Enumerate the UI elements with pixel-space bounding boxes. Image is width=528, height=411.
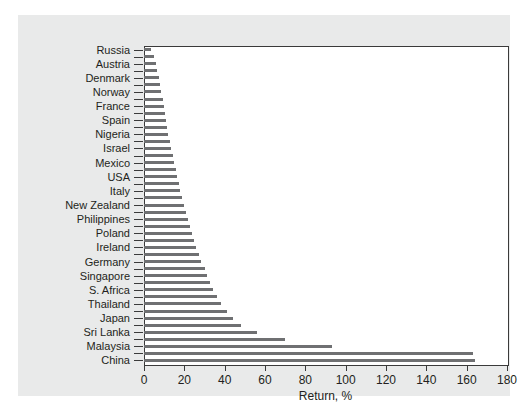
- bar: [144, 154, 173, 157]
- bar: [144, 211, 186, 214]
- y-axis-tick: [134, 141, 143, 142]
- y-axis-tick: [134, 177, 143, 178]
- y-axis-label: Thailand: [88, 298, 130, 309]
- y-axis-label: Philippines: [77, 214, 130, 225]
- y-axis-label: Israel: [103, 143, 130, 154]
- y-axis-tick: [134, 318, 143, 319]
- x-axis-tick: [225, 365, 226, 371]
- y-axis-tick: [134, 283, 143, 284]
- y-axis-tick: [134, 106, 143, 107]
- bar: [144, 345, 332, 348]
- x-axis-title: Return, %: [144, 389, 507, 403]
- x-axis-tick-label: 80: [299, 373, 312, 387]
- y-axis-tick: [134, 360, 143, 361]
- x-axis-tick-label: 20: [178, 373, 191, 387]
- bar: [144, 69, 157, 72]
- bar: [144, 147, 171, 150]
- chart-screenshot: RussiaAustriaDenmarkNorwayFranceSpainNig…: [0, 0, 528, 411]
- x-axis-tick: [507, 365, 508, 371]
- bar: [144, 310, 227, 313]
- y-axis-tick: [134, 240, 143, 241]
- y-axis-tick: [134, 332, 143, 333]
- x-axis-tick: [144, 365, 145, 371]
- bar: [144, 260, 201, 263]
- x-axis-tick: [426, 365, 427, 371]
- y-axis-tick: [134, 92, 143, 93]
- y-axis-tick: [134, 191, 143, 192]
- y-axis: RussiaAustriaDenmarkNorwayFranceSpainNig…: [36, 46, 144, 364]
- y-axis-tick: [134, 120, 143, 121]
- y-axis-label: Sri Lanka: [84, 327, 130, 338]
- x-axis-tick: [467, 365, 468, 371]
- bar: [144, 225, 190, 228]
- bar: [144, 62, 156, 65]
- y-axis-label: Italy: [110, 185, 130, 196]
- y-axis-tick: [134, 247, 143, 248]
- x-axis-tick-label: 60: [258, 373, 271, 387]
- y-axis-tick: [134, 78, 143, 79]
- bar: [144, 126, 167, 129]
- bar: [144, 175, 177, 178]
- bar: [144, 105, 164, 108]
- y-axis-label: Malaysia: [87, 341, 130, 352]
- y-axis-tick: [134, 156, 143, 157]
- y-axis-label: Spain: [102, 115, 130, 126]
- y-axis-tick: [134, 57, 143, 58]
- y-axis-label: China: [101, 355, 130, 366]
- y-axis-tick: [134, 212, 143, 213]
- y-axis-tick: [134, 71, 143, 72]
- bar: [144, 267, 205, 270]
- y-axis-label: Austria: [96, 58, 130, 69]
- x-axis-tick-label: 40: [218, 373, 231, 387]
- y-axis-label: France: [96, 101, 130, 112]
- x-axis-tick: [346, 365, 347, 371]
- bar: [144, 331, 257, 334]
- bar: [144, 133, 168, 136]
- y-axis-label: Ireland: [96, 242, 130, 253]
- y-axis-label: USA: [107, 171, 130, 182]
- bar: [144, 253, 199, 256]
- bar: [144, 246, 196, 249]
- y-axis-tick: [134, 254, 143, 255]
- y-axis-tick: [134, 85, 143, 86]
- x-axis-tick: [305, 365, 306, 371]
- y-axis-label: S. Africa: [89, 284, 130, 295]
- y-axis-tick: [134, 113, 143, 114]
- y-axis-tick: [134, 219, 143, 220]
- bar: [144, 274, 207, 277]
- y-axis-label: Singapore: [80, 270, 130, 281]
- bar: [144, 302, 221, 305]
- y-axis-tick: [134, 64, 143, 65]
- bar: [144, 112, 165, 115]
- y-axis-tick: [134, 233, 143, 234]
- y-axis-tick: [134, 148, 143, 149]
- y-axis-tick: [134, 353, 143, 354]
- y-axis-tick: [134, 311, 143, 312]
- chart-panel: RussiaAustriaDenmarkNorwayFranceSpainNig…: [18, 15, 510, 396]
- y-axis-label: New Zealand: [65, 200, 130, 211]
- bar: [144, 76, 159, 79]
- bar: [144, 48, 151, 51]
- bar: [144, 140, 170, 143]
- bar: [144, 55, 154, 58]
- bar: [144, 324, 241, 327]
- bar-series: [144, 46, 507, 364]
- y-axis-tick: [134, 325, 143, 326]
- y-axis-tick: [134, 297, 143, 298]
- y-axis-tick: [134, 134, 143, 135]
- bar: [144, 83, 160, 86]
- bar: [144, 352, 473, 355]
- bar: [144, 90, 161, 93]
- bar: [144, 98, 163, 101]
- y-axis-tick: [134, 339, 143, 340]
- y-axis-tick: [134, 269, 143, 270]
- y-axis-tick: [134, 50, 143, 51]
- y-axis-tick: [134, 99, 143, 100]
- bar: [144, 359, 475, 362]
- y-axis-label: Mexico: [95, 157, 130, 168]
- bar: [144, 196, 182, 199]
- y-axis-label: Norway: [93, 86, 130, 97]
- y-axis-tick: [134, 170, 143, 171]
- y-axis-tick: [134, 304, 143, 305]
- bar: [144, 119, 166, 122]
